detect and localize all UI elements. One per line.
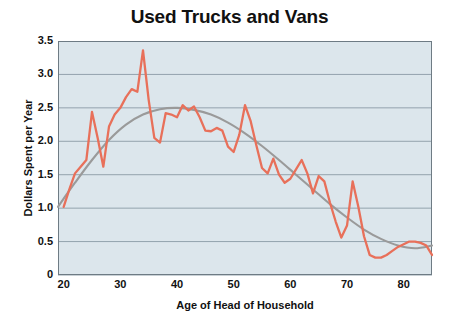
plot-background — [58, 41, 432, 275]
plot-area — [0, 0, 459, 333]
chart-figure: Used Trucks and Vans Dollars Spent per Y… — [0, 0, 459, 333]
